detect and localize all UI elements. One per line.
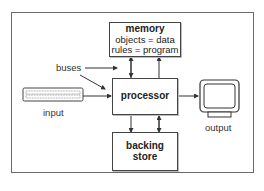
memory-box: memory objects = data rules = program [109,22,181,57]
buses-label: buses [56,62,81,73]
backing-store-title-1: backing [126,141,164,152]
monitor-icon [200,80,239,117]
backing-store-box: backing store [112,132,178,171]
memory-line-2: rules = program [112,45,179,55]
keyboard-icon [23,88,83,101]
processor-box: processor [112,78,178,115]
backing-store-title-2: store [133,152,157,163]
buses-pointer-2 [80,75,105,89]
output-label: output [205,122,231,133]
input-label: input [43,107,64,118]
processor-title: processor [121,91,169,102]
